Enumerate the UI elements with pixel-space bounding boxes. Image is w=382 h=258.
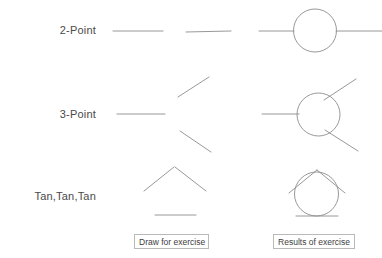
construction-line — [180, 131, 211, 152]
figure-2-point-result — [259, 9, 382, 52]
figure-tan-tan-tan-draw — [144, 167, 206, 215]
row-label-2-point: 2-Point — [16, 24, 96, 36]
row-label-3-point: 3-Point — [16, 108, 96, 120]
row-label-tan-tan-tan: Tan,Tan,Tan — [8, 190, 96, 202]
construction-line — [325, 130, 358, 151]
tangent-circle — [294, 9, 337, 52]
figure-tan-tan-tan-result — [289, 170, 345, 216]
construction-line — [324, 79, 356, 100]
figure-3-point-draw — [117, 77, 211, 152]
tangent-circle — [297, 93, 340, 136]
exercise-sheet: 2-Point 3-Point Tan,Tan,Tan Draw for exe… — [0, 0, 382, 258]
figure-2-point-draw — [113, 31, 231, 32]
construction-line — [186, 31, 231, 32]
caption-results-of-exercise: Results of exercise — [273, 234, 355, 249]
tangent-circle — [295, 172, 339, 216]
figure-3-point-result — [262, 79, 358, 151]
construction-line — [317, 170, 345, 193]
construction-line — [289, 170, 317, 193]
caption-draw-for-exercise: Draw for exercise — [134, 234, 209, 249]
construction-line — [178, 77, 209, 97]
construction-line — [175, 167, 206, 191]
construction-line — [144, 167, 174, 191]
geometry-figures — [0, 0, 382, 258]
